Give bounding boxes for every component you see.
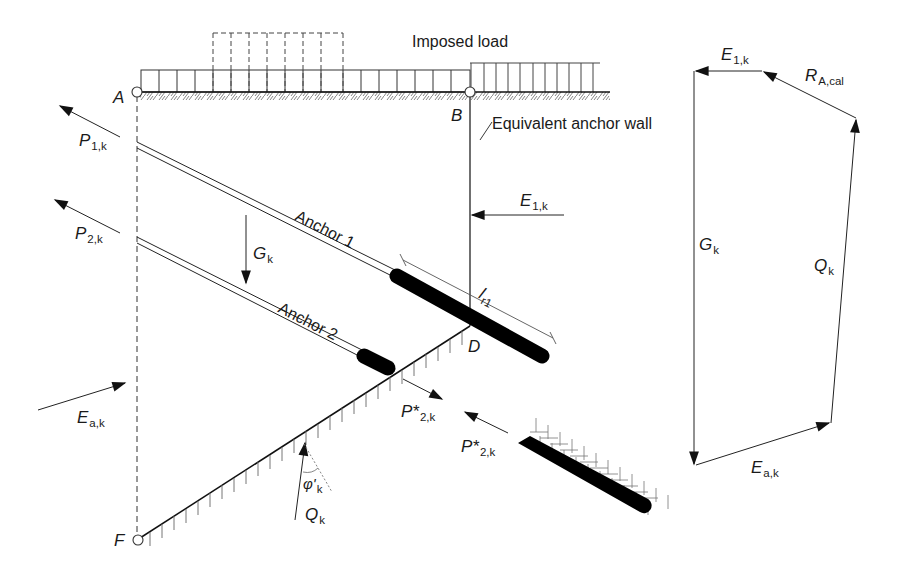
equivalent-anchor-wall-label: Equivalent anchor wall [492, 116, 652, 132]
P2k-star-arrow-down [403, 379, 442, 399]
Eak-label: Ea,k [77, 409, 105, 426]
polygon-Eak-label: Ea,k [751, 459, 779, 476]
imposed-load-uniform [141, 70, 470, 92]
Qk-label: Qk [305, 506, 325, 523]
P2k-star-label-1: P*2,k [401, 403, 435, 420]
P2k-star-label-2: P*2,k [461, 438, 495, 455]
P1k-label: P1,k [79, 132, 107, 149]
Eak-arrow [38, 383, 125, 410]
point-D-label: D [468, 338, 480, 355]
point-B-label: B [451, 107, 462, 124]
E1k-label: E1,k [520, 192, 548, 209]
point-B-marker [465, 87, 475, 97]
anchor-2-detached-grout-body [518, 436, 652, 513]
wall-leader-line [480, 122, 492, 140]
polygon-Qk-arrow [831, 120, 856, 423]
point-A-label: A [113, 89, 124, 106]
imposed-load-label: Imposed load [412, 34, 508, 50]
Gk-label: Gk [253, 245, 273, 262]
point-F-marker [133, 535, 143, 545]
imposed-load-right [470, 63, 600, 92]
P2k-star-arrow-up [465, 412, 508, 433]
polygon-RAcal-label: RA,cal [805, 67, 844, 84]
polygon-E1k-label: E1,k [721, 46, 749, 63]
point-F-label: F [114, 532, 124, 549]
imposed-load-strip-dashed [213, 33, 343, 92]
polygon-Qk-label: Qk [814, 257, 834, 274]
point-A-marker [132, 87, 142, 97]
anchor-stability-diagram [0, 0, 900, 575]
polygon-Gk-label: Gk [699, 236, 719, 253]
phi-angle-arc [303, 468, 318, 473]
anchor-2-grout-body [364, 356, 388, 368]
P2k-label: P2,k [75, 225, 103, 242]
ground-hatch [140, 92, 610, 100]
phi-k-label: φ'k [303, 476, 322, 492]
